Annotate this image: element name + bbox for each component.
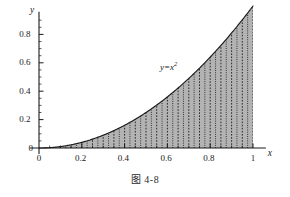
- x-tick-label: 0: [37, 154, 42, 163]
- x-tick-label: 0.4: [118, 154, 129, 163]
- x-axis-label: x: [268, 149, 272, 159]
- x-tick-label: 0.2: [75, 154, 86, 163]
- y-tick-label: 0.4: [19, 87, 30, 96]
- figure-caption: 图 4-8: [0, 174, 290, 186]
- y-tick-label: 0.2: [19, 115, 30, 124]
- curve-equation-exponent: 2: [174, 60, 177, 67]
- y-tick-label: 0: [28, 144, 33, 153]
- x-tick-label: 0.8: [203, 154, 214, 163]
- curve-equation-label: y=x2: [160, 63, 177, 72]
- figure-container: 00.20.40.60.81 00.20.40.60.8 x y y=x2 图 …: [0, 0, 290, 197]
- curve-equation-base: y=x: [160, 62, 174, 72]
- y-tick-label: 0.8: [19, 30, 30, 39]
- y-tick-label: 0.6: [19, 58, 30, 67]
- y-axis-label: y: [30, 6, 34, 16]
- plot-area: 00.20.40.60.81 00.20.40.60.8 x y y=x2: [0, 0, 290, 170]
- y-axis-ticks: [39, 20, 44, 141]
- function-plot-svg: [0, 0, 290, 170]
- x-tick-label: 0.6: [161, 154, 172, 163]
- shaded-region-group: [39, 6, 253, 148]
- x-tick-label: 1: [251, 154, 256, 163]
- area-under-curve-fill: [39, 6, 253, 148]
